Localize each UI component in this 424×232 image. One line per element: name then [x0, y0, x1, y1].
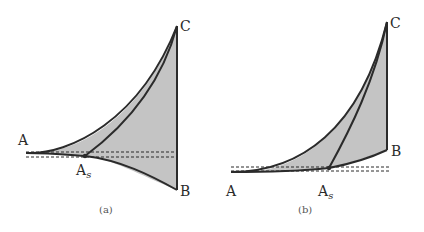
label-as: As — [75, 162, 91, 180]
label-as-b: As — [317, 183, 333, 201]
panel-b: A As C B (b) — [225, 15, 401, 215]
caption-b: (b) — [298, 204, 312, 215]
shaded-region-a — [40, 26, 177, 190]
label-b-b: B — [391, 143, 401, 159]
panel-a: A As C B (a) — [17, 18, 191, 215]
label-a-b: A — [225, 183, 237, 199]
shaded-region-b — [260, 22, 387, 171]
label-a: A — [17, 132, 29, 148]
label-c: C — [180, 18, 191, 34]
label-c-b: C — [390, 15, 401, 31]
point-as-b — [327, 166, 331, 170]
figure: A As C B (a) A As C B (b) — [0, 0, 424, 232]
caption-a: (a) — [99, 204, 113, 215]
point-as-a — [83, 154, 87, 158]
label-b: B — [180, 183, 190, 199]
